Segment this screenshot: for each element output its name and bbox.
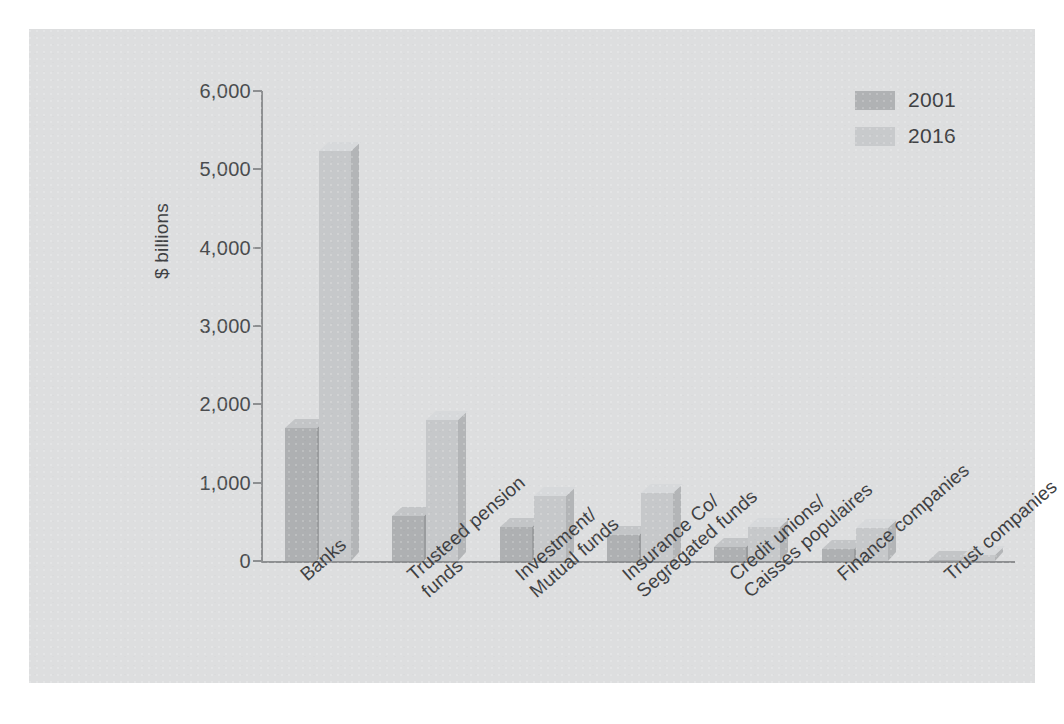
y-tick-label-5000: 5,000 (199, 158, 251, 181)
bar-group (392, 91, 458, 561)
legend-label-2016: 2016 (908, 124, 956, 148)
figure: $ billions 6,0005,0004,0003,0002,0001,00… (0, 0, 1064, 724)
y-tick-label-3000: 3,000 (199, 315, 251, 338)
bar-2001[interactable] (285, 428, 317, 561)
legend-item-2016[interactable]: 2016 (855, 118, 956, 154)
y-tick-5000 (253, 168, 262, 170)
bar-side-face (351, 142, 359, 561)
y-tick-4000 (253, 247, 262, 249)
y-tick-3000 (253, 325, 262, 327)
y-tick-label-1000: 1,000 (199, 471, 251, 494)
bar-group (285, 91, 351, 561)
y-tick-0 (253, 560, 262, 562)
legend-swatch-icon-2016 (855, 127, 895, 146)
y-tick-label-0: 0 (240, 550, 251, 573)
bar-group (607, 91, 673, 561)
plot-area: 6,0005,0004,0003,0002,0001,0000 BanksTru… (262, 91, 1014, 561)
bar-front-face (285, 428, 317, 561)
chart-panel: $ billions 6,0005,0004,0003,0002,0001,00… (29, 29, 1035, 683)
bar-front-face (319, 151, 351, 561)
legend: 2001 2016 (855, 82, 956, 154)
bar-2016[interactable] (319, 151, 351, 561)
y-tick-label-4000: 4,000 (199, 236, 251, 259)
y-tick-label-2000: 2,000 (199, 393, 251, 416)
y-axis-title: $ billions (151, 203, 173, 279)
y-tick-2000 (253, 403, 262, 405)
y-tick-6000 (253, 90, 262, 92)
y-tick-label-6000: 6,000 (199, 80, 251, 103)
y-tick-1000 (253, 482, 262, 484)
legend-label-2001: 2001 (908, 88, 956, 112)
legend-swatch-icon-2001 (855, 91, 895, 110)
legend-item-2001[interactable]: 2001 (855, 82, 956, 118)
